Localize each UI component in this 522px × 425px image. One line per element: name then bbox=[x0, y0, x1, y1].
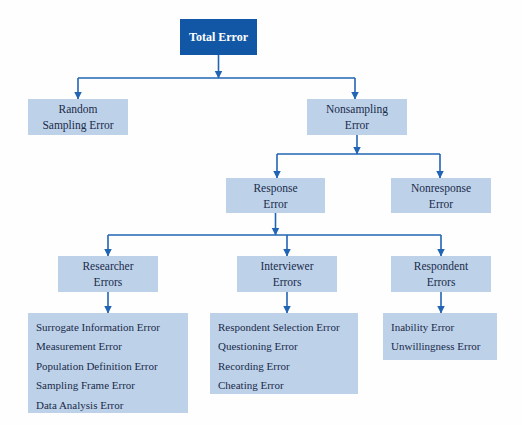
node-total-error-label: Total Error bbox=[189, 29, 248, 45]
connector-response-to-level3 bbox=[108, 213, 441, 256]
leaf-item-unwillingness-error: Unwillingness Error bbox=[391, 337, 489, 356]
node-nonresponse-error-label: Nonresponse Error bbox=[411, 180, 471, 212]
leaf-item-questioning-error: Questioning Error bbox=[218, 337, 350, 356]
leaf-item-population-definition-error: Population Definition Error bbox=[36, 357, 180, 376]
node-nonresponse-error: Nonresponse Error bbox=[391, 178, 491, 213]
leaf-item-recording-error: Recording Error bbox=[218, 357, 350, 376]
node-interviewer-errors-label: Interviewer Errors bbox=[261, 258, 314, 290]
node-researcher-errors-label: Researcher Errors bbox=[82, 258, 133, 290]
node-response-error-label: Response Error bbox=[253, 180, 297, 212]
leaf-item-data-analysis-error: Data Analysis Error bbox=[36, 396, 180, 415]
node-random-sampling-error: Random Sampling Error bbox=[28, 99, 128, 135]
node-respondent-errors-label: Respondent Errors bbox=[414, 258, 468, 290]
node-respondent-errors: Respondent Errors bbox=[391, 256, 491, 292]
leaf-list-researcher-errors: Surrogate Information Error Measurement … bbox=[28, 313, 188, 413]
node-total-error: Total Error bbox=[180, 19, 257, 55]
node-random-sampling-error-label: Random Sampling Error bbox=[42, 101, 113, 133]
total-error-taxonomy-diagram: Total Error Random Sampling Error Nonsam… bbox=[0, 0, 522, 425]
node-nonsampling-error-label: Nonsampling Error bbox=[326, 101, 388, 133]
leaf-item-sampling-frame-error: Sampling Frame Error bbox=[36, 376, 180, 395]
leaf-item-inability-error: Inability Error bbox=[391, 318, 489, 337]
node-nonsampling-error: Nonsampling Error bbox=[307, 99, 407, 135]
connector-level3-to-leaves bbox=[108, 292, 441, 313]
leaf-list-interviewer-errors: Respondent Selection Error Questioning E… bbox=[210, 313, 358, 394]
connector-nonsampling-to-level2 bbox=[277, 135, 440, 178]
node-researcher-errors: Researcher Errors bbox=[58, 256, 158, 292]
leaf-item-surrogate-information-error: Surrogate Information Error bbox=[36, 318, 180, 337]
leaf-item-measurement-error: Measurement Error bbox=[36, 337, 180, 356]
leaf-list-respondent-errors: Inability Error Unwillingness Error bbox=[383, 313, 497, 360]
connector-total-to-level1 bbox=[78, 55, 355, 99]
node-response-error: Response Error bbox=[226, 178, 325, 213]
leaf-item-respondent-selection-error: Respondent Selection Error bbox=[218, 318, 350, 337]
leaf-item-cheating-error: Cheating Error bbox=[218, 376, 350, 395]
node-interviewer-errors: Interviewer Errors bbox=[237, 256, 337, 292]
